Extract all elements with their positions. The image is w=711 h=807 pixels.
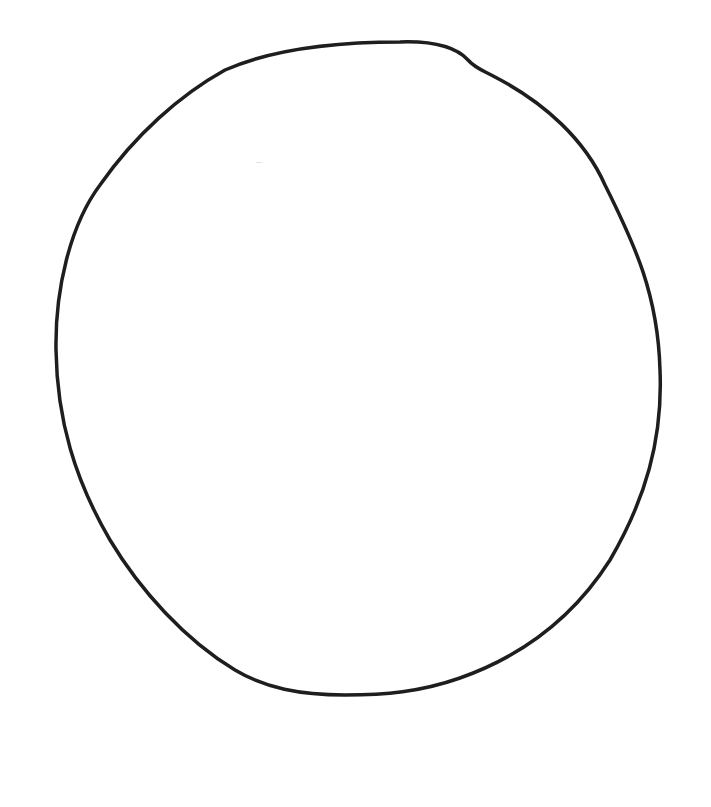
hand-drawn-circle bbox=[56, 42, 660, 695]
circle-outline-drawing bbox=[0, 0, 711, 807]
drawing-canvas bbox=[0, 0, 711, 807]
paper-speck bbox=[256, 162, 262, 163]
